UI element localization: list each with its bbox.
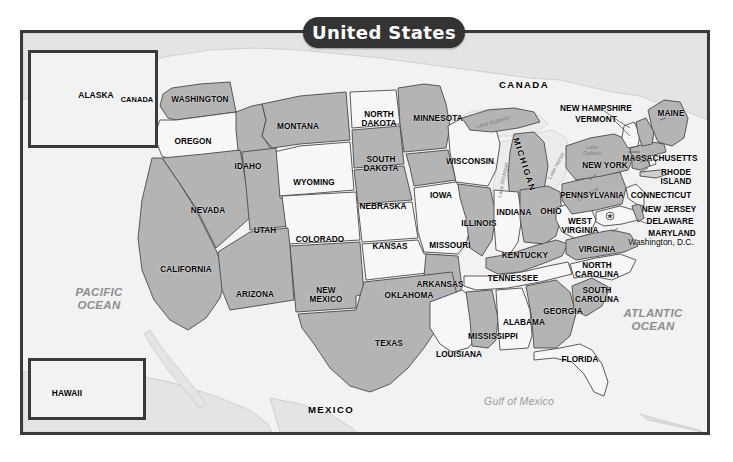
label-new-york: NEW YORK	[582, 161, 628, 170]
label-alabama: ALABAMA	[503, 318, 545, 327]
label-tennessee: TENNESSEE	[488, 274, 539, 283]
label-utah: UTAH	[254, 226, 277, 235]
label-illinois: ILLINOIS	[461, 219, 496, 228]
label-rhode-island: RHODE ISLAND	[660, 168, 691, 187]
hawaii-inset	[28, 358, 146, 420]
label-louisiana: LOUISIANA	[436, 350, 482, 359]
label-indiana: INDIANA	[497, 208, 532, 217]
label-delaware: DELAWARE	[646, 217, 693, 226]
label-florida: FLORIDA	[561, 355, 598, 364]
label-colorado: COLORADO	[296, 235, 345, 244]
label-canada-inset: CANADA	[121, 96, 154, 105]
label-georgia: GEORGIA	[543, 307, 582, 316]
label-california: CALIFORNIA	[160, 265, 211, 274]
label-texas: TEXAS	[375, 339, 403, 348]
label-alaska: ALASKA	[78, 91, 114, 100]
label-montana: MONTANA	[277, 122, 319, 131]
us-map-figure: United States ALASKA CANADA HAWAII CANAD…	[0, 0, 733, 462]
star-icon	[606, 212, 615, 221]
label-kansas: KANSAS	[372, 242, 407, 251]
label-nevada: NEVADA	[191, 206, 226, 215]
label-washington-dc: Washington, D.C.	[628, 238, 693, 247]
label-hawaii: HAWAII	[52, 389, 82, 398]
label-vermont: VERMONT	[575, 115, 617, 124]
map-title-badge: United States	[303, 17, 465, 48]
label-washington: WASHINGTON	[171, 95, 228, 104]
label-canada: CANADA	[499, 79, 549, 90]
label-ohio: OHIO	[540, 207, 561, 216]
label-south-carolina: SOUTH CAROLINA	[575, 286, 619, 305]
label-gulf-of-mexico: Gulf of Mexico	[484, 397, 554, 406]
label-missouri: MISSOURI	[429, 241, 470, 250]
label-north-dakota: NORTH DAKOTA	[361, 110, 396, 129]
label-atlantic-ocean: ATLANTIC OCEAN	[623, 307, 682, 333]
label-arkansas: ARKANSAS	[416, 280, 463, 289]
label-arizona: ARIZONA	[236, 290, 274, 299]
label-pacific-ocean: PACIFIC OCEAN	[75, 286, 122, 312]
label-wisconsin: WISCONSIN	[446, 157, 494, 166]
label-iowa: IOWA	[430, 191, 452, 200]
label-oklahoma: OKLAHOMA	[384, 291, 433, 300]
label-kentucky: KENTUCKY	[502, 251, 548, 260]
label-nebraska: NEBRASKA	[359, 202, 406, 211]
label-lake-ontario: Lake Ontario	[583, 144, 601, 157]
label-south-dakota: SOUTH DAKOTA	[363, 155, 398, 174]
label-massachusetts: MASSACHUSETTS	[623, 154, 698, 163]
label-north-carolina: NORTH CAROLINA	[575, 261, 619, 280]
label-pennsylvania: PENNSYLVANIA	[560, 191, 624, 200]
page-title: United States	[312, 22, 456, 43]
label-new-mexico: NEW MEXICO	[310, 286, 343, 305]
label-idaho: IDAHO	[235, 162, 262, 171]
label-oregon: OREGON	[175, 137, 212, 146]
label-maine: MAINE	[658, 109, 685, 118]
label-virginia: VIRGINIA	[578, 245, 615, 254]
label-new-jersey: NEW JERSEY	[642, 205, 697, 214]
label-wyoming: WYOMING	[293, 178, 335, 187]
label-west-virginia: WEST VIRGINIA	[561, 217, 598, 236]
label-mexico: MEXICO	[308, 404, 354, 415]
label-minnesota: MINNESOTA	[413, 114, 462, 123]
label-new-hampshire: NEW HAMPSHIRE	[560, 104, 632, 113]
label-mississippi: MISSISSIPPI	[468, 332, 518, 341]
label-connecticut: CONNECTICUT	[631, 191, 692, 200]
